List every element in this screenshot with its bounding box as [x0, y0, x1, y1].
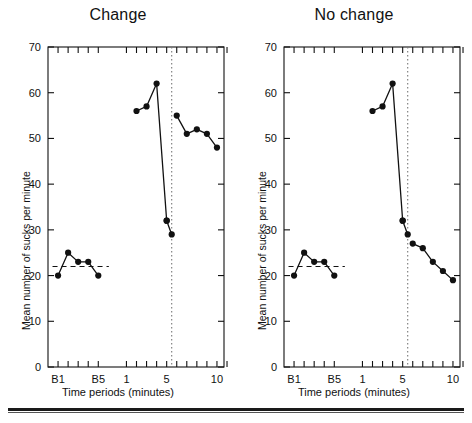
data-point [440, 268, 446, 274]
x-tick-label: B5 [92, 373, 105, 385]
data-point [321, 259, 327, 265]
y-tick-label: 20 [29, 270, 41, 282]
y-tick-label: 50 [265, 132, 277, 144]
data-point [194, 126, 200, 132]
x-tick-label: B1 [287, 373, 300, 385]
data-point [390, 80, 396, 86]
series-line [373, 84, 403, 221]
y-tick-label: 40 [265, 178, 277, 190]
data-point [204, 131, 210, 137]
data-point [184, 131, 190, 137]
data-point [214, 144, 220, 150]
data-point [405, 231, 411, 237]
data-point [164, 218, 170, 224]
y-tick-label: 50 [29, 132, 41, 144]
x-tick-label: 5 [400, 373, 406, 385]
data-point [410, 240, 416, 246]
y-tick-label: 10 [265, 315, 277, 327]
data-point [75, 259, 81, 265]
panel-change: Change Mean number of sucks per minute 0… [0, 0, 236, 400]
y-tick-label: 70 [29, 41, 41, 53]
x-tick-label: 10 [447, 373, 459, 385]
data-point [301, 250, 307, 256]
x-tick-label: 1 [123, 373, 129, 385]
x-tick-label: 1 [359, 373, 365, 385]
y-tick-label: 70 [265, 41, 277, 53]
data-point [420, 245, 426, 251]
data-point [143, 103, 149, 109]
x-tick-label: B5 [328, 373, 341, 385]
plot-frame [284, 47, 460, 367]
data-point [85, 259, 91, 265]
data-point [55, 272, 61, 278]
x-axis-label-change: Time periods (minutes) [0, 386, 236, 398]
plot-area-change: 010203040506070B1B51510 [0, 0, 236, 400]
data-point [331, 272, 337, 278]
x-axis-label-no-change: Time periods (minutes) [236, 386, 472, 398]
data-point [291, 272, 297, 278]
plot-area-no-change: 010203040506070B1B51510 [236, 0, 472, 400]
data-point [379, 103, 385, 109]
series-line [137, 84, 167, 221]
x-tick-label: B1 [51, 373, 64, 385]
data-point [154, 80, 160, 86]
plot-frame [48, 47, 224, 367]
panel-no-change: No change Mean number of sucks per minut… [236, 0, 472, 400]
data-point [65, 250, 71, 256]
data-point [311, 259, 317, 265]
y-tick-label: 0 [271, 361, 277, 373]
data-point [400, 218, 406, 224]
data-point [174, 112, 180, 118]
x-tick-label: 5 [164, 373, 170, 385]
bottom-rule [8, 408, 464, 411]
figure: Change Mean number of sucks per minute 0… [0, 0, 472, 423]
data-point [95, 272, 101, 278]
data-point [369, 108, 375, 114]
y-tick-label: 0 [35, 361, 41, 373]
y-tick-label: 60 [29, 87, 41, 99]
data-point [450, 277, 456, 283]
y-tick-label: 20 [265, 270, 277, 282]
data-point [430, 259, 436, 265]
y-tick-label: 40 [29, 178, 41, 190]
y-tick-label: 60 [265, 87, 277, 99]
y-tick-label: 10 [29, 315, 41, 327]
y-tick-label: 30 [29, 224, 41, 236]
bottom-rule-secondary [8, 412, 464, 413]
y-tick-label: 30 [265, 224, 277, 236]
x-tick-label: 10 [211, 373, 223, 385]
data-point [133, 108, 139, 114]
data-point [169, 231, 175, 237]
